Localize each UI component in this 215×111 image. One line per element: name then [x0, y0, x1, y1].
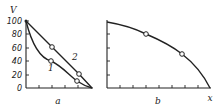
series-1-marker: [75, 79, 80, 84]
series-1-label: 1: [48, 63, 54, 73]
ytick-20: 20: [12, 71, 22, 80]
panel-a: V 100 80 60 40 20 0 2 1 a: [7, 5, 93, 106]
panel-a-caption: a: [55, 96, 60, 106]
panel-b-caption: b: [155, 96, 161, 106]
series-2-marker: [50, 45, 55, 50]
ytick-40: 40: [12, 57, 22, 66]
series-2-marker: [77, 72, 82, 77]
figure: V 100 80 60 40 20 0 2 1 a: [0, 0, 215, 111]
ytick-0: 0: [17, 84, 22, 93]
panel-b-curve: [107, 22, 210, 88]
series-2-line: [26, 21, 92, 88]
panel-b: x b: [107, 20, 213, 106]
ytick-100: 100: [7, 17, 22, 26]
panel-a-ylabel: V: [10, 5, 18, 15]
start-point: [25, 20, 28, 23]
panel-b-xlabel: x: [207, 93, 212, 103]
ytick-80: 80: [12, 30, 22, 39]
ytick-60: 60: [12, 44, 22, 53]
panel-b-marker: [180, 52, 185, 57]
panel-b-marker: [144, 32, 149, 37]
series-2-label: 2: [71, 52, 78, 62]
